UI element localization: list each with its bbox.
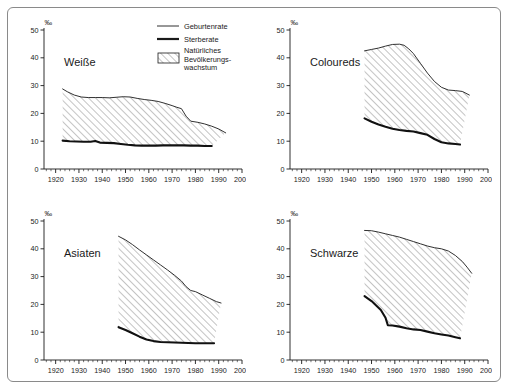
y-tick-label: 30 — [277, 81, 285, 90]
legend-label-sterberate: Sterberate — [184, 35, 219, 44]
x-tick-label: 1960 — [141, 175, 157, 184]
y-tick-label: 30 — [31, 81, 39, 90]
x-tick-label: 1980 — [187, 366, 203, 375]
x-tick-label: 1960 — [141, 366, 157, 375]
panel-title: Asiaten — [64, 247, 101, 259]
chart-svg: 0102030405019201930194019501960197019801… — [264, 205, 492, 381]
figure-legend: GeburtenrateSterberateNatürlichesBevölke… — [155, 20, 265, 78]
x-tick-label: 1950 — [364, 175, 380, 184]
legend-label-wachstum-line3: wachstum — [183, 63, 217, 72]
x-tick-label: 1990 — [211, 175, 227, 184]
y-tick-label: 50 — [277, 217, 285, 226]
y-tick-label: 10 — [31, 137, 39, 146]
x-tick-label: 1920 — [48, 175, 64, 184]
x-tick-label: 1940 — [340, 366, 356, 375]
figure-root: 0102030405019201930194019501960197019801… — [0, 0, 510, 391]
y-tick-label: 50 — [31, 217, 39, 226]
x-tick-label: 1920 — [48, 366, 64, 375]
chart-svg: 0102030405019201930194019501960197019801… — [18, 205, 246, 381]
natural-increase-area — [119, 236, 221, 343]
legend-swatch-hatch — [158, 53, 179, 63]
x-tick-label: 1920 — [294, 366, 310, 375]
x-tick-label: 1980 — [433, 175, 449, 184]
y-tick-label: 40 — [277, 53, 285, 62]
y-tick-label: 20 — [277, 300, 285, 309]
x-tick-label: 1950 — [364, 366, 380, 375]
legend-item-sterberate: Sterberate — [157, 35, 219, 44]
legend-label-geburtenrate: Geburtenrate — [184, 22, 228, 31]
x-tick-label: 1970 — [164, 366, 180, 375]
y-tick-label: 20 — [31, 109, 39, 118]
y-axis-unit-label: ‰ — [291, 209, 299, 218]
y-tick-label: 40 — [31, 53, 39, 62]
y-tick-label: 50 — [277, 26, 285, 35]
chart-svg: 0102030405019201930194019501960197019801… — [264, 14, 492, 190]
panel-title: Coloureds — [310, 56, 361, 68]
x-tick-label: 1960 — [387, 175, 403, 184]
y-tick-label: 40 — [277, 244, 285, 253]
y-tick-label: 10 — [277, 137, 285, 146]
y-tick-label: 0 — [35, 165, 39, 174]
x-tick-label: 1930 — [317, 175, 333, 184]
natural-increase-area — [365, 230, 472, 338]
x-tick-label: 1960 — [387, 366, 403, 375]
x-tick-label: 1950 — [118, 175, 134, 184]
x-tick-label: 2000 — [480, 366, 492, 375]
x-tick-label: 1970 — [410, 366, 426, 375]
x-tick-label: 1950 — [118, 366, 134, 375]
y-tick-label: 20 — [31, 300, 39, 309]
panel-title: Schwarze — [310, 247, 358, 259]
x-tick-label: 1940 — [94, 366, 110, 375]
chart-panel-schwarze: 0102030405019201930194019501960197019801… — [264, 205, 492, 381]
y-tick-label: 0 — [281, 165, 285, 174]
x-tick-label: 1970 — [410, 175, 426, 184]
x-tick-label: 1970 — [164, 175, 180, 184]
x-tick-label: 2000 — [480, 175, 492, 184]
chart-panel-coloureds: 0102030405019201930194019501960197019801… — [264, 14, 492, 190]
y-tick-label: 0 — [35, 356, 39, 365]
x-tick-label: 1930 — [317, 366, 333, 375]
y-tick-label: 10 — [277, 328, 285, 337]
x-tick-label: 1930 — [71, 366, 87, 375]
x-tick-label: 1980 — [433, 366, 449, 375]
y-axis-unit-label: ‰ — [45, 18, 53, 27]
legend-item-wachstum: NatürlichesBevölkerungs-wachstum — [158, 46, 232, 72]
y-tick-label: 30 — [277, 272, 285, 281]
y-axis-unit-label: ‰ — [291, 18, 299, 27]
legend-item-geburtenrate: Geburtenrate — [157, 22, 228, 31]
y-tick-label: 10 — [31, 328, 39, 337]
x-tick-label: 1980 — [187, 175, 203, 184]
panel-title: Weiße — [64, 56, 96, 68]
y-tick-label: 40 — [31, 244, 39, 253]
x-tick-label: 1920 — [294, 175, 310, 184]
chart-panel-asiaten: 0102030405019201930194019501960197019801… — [18, 205, 246, 381]
x-tick-label: 1940 — [340, 175, 356, 184]
x-tick-label: 1940 — [94, 175, 110, 184]
y-tick-label: 20 — [277, 109, 285, 118]
x-tick-label: 1990 — [211, 366, 227, 375]
y-tick-label: 0 — [281, 356, 285, 365]
x-tick-label: 2000 — [234, 366, 246, 375]
x-tick-label: 1930 — [71, 175, 87, 184]
x-tick-label: 1990 — [457, 175, 473, 184]
y-tick-label: 30 — [31, 272, 39, 281]
x-tick-label: 2000 — [234, 175, 246, 184]
y-tick-label: 50 — [31, 26, 39, 35]
legend-svg: GeburtenrateSterberateNatürlichesBevölke… — [155, 20, 265, 78]
x-tick-label: 1990 — [457, 366, 473, 375]
y-axis-unit-label: ‰ — [45, 209, 53, 218]
